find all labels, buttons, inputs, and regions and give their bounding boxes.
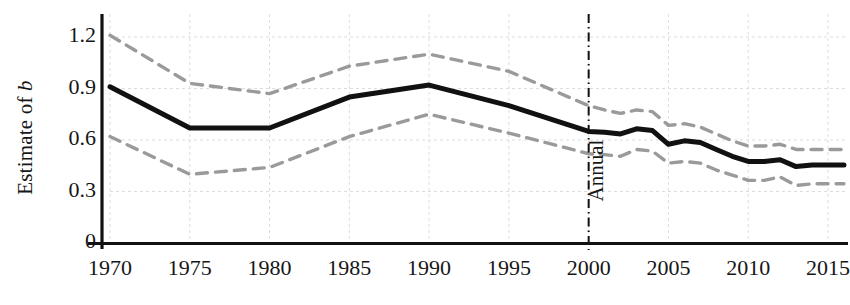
chart-container: Estimate of b 1.20.90.60.30 197019751980…: [0, 0, 850, 305]
plot-area: [0, 0, 850, 305]
series-line: [110, 114, 844, 185]
series-line: [110, 35, 844, 149]
annual-annotation-label: Annual: [586, 111, 607, 231]
